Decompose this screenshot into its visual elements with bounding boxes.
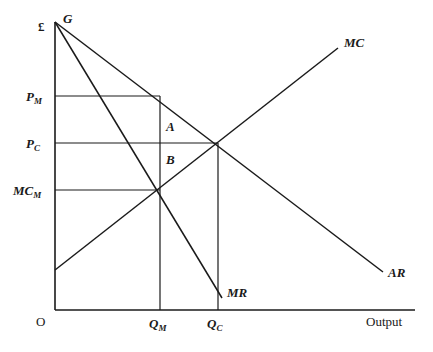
axis-label-qc: QC <box>207 317 222 330</box>
curve-label-ar: AR <box>388 266 405 279</box>
curve-mr <box>55 22 222 298</box>
economics-diagram: £ O Output PMPCMCMQMQCARMRMCGAB <box>0 0 433 352</box>
price-level-lines <box>55 96 218 190</box>
curve-ar <box>55 22 383 272</box>
point-label-g: G <box>63 12 72 25</box>
point-label-b: B <box>166 153 175 166</box>
point-label-a: A <box>166 120 175 133</box>
curve-lines <box>55 22 383 298</box>
origin-label: O <box>36 315 45 328</box>
axis-label-pm: PM <box>26 90 42 103</box>
x-axis-output-label: Output <box>366 315 402 328</box>
curve-label-mr: MR <box>227 286 247 299</box>
axis-label-qm: QM <box>149 317 166 330</box>
y-axis-currency-label: £ <box>38 20 45 33</box>
axis-label-pc: PC <box>26 137 40 150</box>
diagram-canvas <box>0 0 433 352</box>
axis-label-mcm: MCM <box>13 184 41 197</box>
curve-label-mc: MC <box>344 36 364 49</box>
axes-group <box>55 22 415 310</box>
curve-mc <box>55 48 338 270</box>
